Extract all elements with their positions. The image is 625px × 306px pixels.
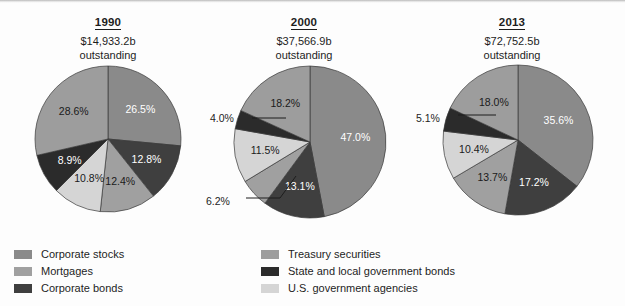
pie-label-2000-4-0: 4.0%: [210, 112, 234, 124]
panel-2013-header: 2013 $72,752.5b outstanding: [408, 12, 616, 62]
legend-item-treasury-securities: Treasury securities: [261, 246, 455, 263]
legend-label-corporate-bonds: Corporate bonds: [41, 282, 123, 295]
legend-swatch-state-local-bonds: [261, 267, 279, 276]
panel-2000-amount: $37,566.9b: [200, 34, 408, 48]
pie-label-2013-13-7: 13.7%: [478, 171, 508, 183]
panel-1990-header: 1990 $14,933.2b outstanding: [4, 12, 212, 62]
panel-2013-pie-wrap: 35.6%17.2%13.7%10.4%5.1%18.0%: [408, 62, 616, 222]
top-divider: [0, 0, 625, 3]
panel-1990: 1990 $14,933.2b outstanding 26.5%12.8%12…: [4, 12, 212, 244]
pie-label-2013-18-0: 18.0%: [479, 96, 509, 108]
panel-1990-year: 1990: [95, 16, 121, 30]
panel-2013-outstanding: outstanding: [408, 48, 616, 62]
legend-column-left: Corporate stocks Mortgages Corporate bon…: [14, 246, 124, 297]
legend-swatch-treasury-securities: [261, 250, 279, 259]
pie-label-2013-5-1: 5.1%: [416, 112, 440, 124]
pie-label-2013-10-4: 10.4%: [459, 143, 489, 155]
pie-label-1990-26-5: 26.5%: [126, 103, 156, 115]
legend: Corporate stocks Mortgages Corporate bon…: [0, 246, 625, 304]
pie-label-1990-28-6: 28.6%: [59, 105, 89, 117]
pie-label-1990-12-4: 12.4%: [105, 175, 135, 187]
pie-chart-2000: 47.0%13.1%6.2%11.5%4.0%18.2%: [200, 62, 408, 222]
panel-2000: 2000 $37,566.9b outstanding 47.0%13.1%6.…: [200, 12, 408, 244]
pie-label-2000-13-1: 13.1%: [285, 180, 315, 192]
legend-item-corporate-bonds: Corporate bonds: [14, 280, 124, 297]
legend-swatch-corporate-stocks: [14, 250, 32, 259]
pie-label-1990-8-9: 8.9%: [58, 154, 82, 166]
legend-label-treasury-securities: Treasury securities: [288, 248, 381, 261]
pie-chart-1990: 26.5%12.8%12.4%10.8%8.9%28.6%: [4, 62, 212, 222]
panel-2000-header: 2000 $37,566.9b outstanding: [200, 12, 408, 62]
legend-item-us-government-agencies: U.S. government agencies: [261, 280, 455, 297]
panel-2000-year: 2000: [291, 16, 317, 30]
panel-1990-pie-wrap: 26.5%12.8%12.4%10.8%8.9%28.6%: [4, 62, 212, 222]
pie-label-2000-18-2: 18.2%: [270, 97, 300, 109]
legend-item-corporate-stocks: Corporate stocks: [14, 246, 124, 263]
legend-label-mortgages: Mortgages: [41, 265, 93, 278]
pie-label-2000-47-0: 47.0%: [341, 131, 371, 143]
panel-2013-year: 2013: [499, 16, 525, 30]
legend-column-right: Treasury securities State and local gove…: [261, 246, 455, 297]
legend-label-us-government-agencies: U.S. government agencies: [288, 282, 418, 295]
legend-item-state-local-bonds: State and local government bonds: [261, 263, 455, 280]
legend-item-mortgages: Mortgages: [14, 263, 124, 280]
pie-chart-figure: 1990 $14,933.2b outstanding 26.5%12.8%12…: [0, 0, 625, 306]
panel-2013: 2013 $72,752.5b outstanding 35.6%17.2%13…: [408, 12, 616, 244]
pie-label-2000-6-2: 6.2%: [206, 195, 230, 207]
legend-label-corporate-stocks: Corporate stocks: [41, 248, 124, 261]
panel-1990-outstanding: outstanding: [4, 48, 212, 62]
legend-label-state-local-bonds: State and local government bonds: [288, 265, 455, 278]
panel-1990-amount: $14,933.2b: [4, 34, 212, 48]
pie-label-2013-35-6: 35.6%: [544, 114, 574, 126]
legend-swatch-mortgages: [14, 267, 32, 276]
pie-label-2013-17-2: 17.2%: [519, 176, 549, 188]
panel-2000-pie-wrap: 47.0%13.1%6.2%11.5%4.0%18.2%: [200, 62, 408, 222]
pie-chart-2013: 35.6%17.2%13.7%10.4%5.1%18.0%: [408, 62, 616, 222]
panel-2013-amount: $72,752.5b: [408, 34, 616, 48]
pie-label-2000-11-5: 11.5%: [251, 144, 280, 156]
pie-label-1990-12-8: 12.8%: [132, 153, 162, 165]
pie-label-1990-10-8: 10.8%: [74, 172, 104, 184]
legend-swatch-us-government-agencies: [261, 284, 279, 293]
panel-2000-outstanding: outstanding: [200, 48, 408, 62]
legend-swatch-corporate-bonds: [14, 284, 32, 293]
